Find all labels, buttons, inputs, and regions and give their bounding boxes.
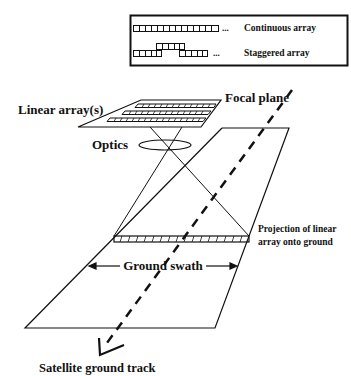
projection-band bbox=[114, 236, 249, 242]
continuous-array-label: Continuous array bbox=[244, 23, 316, 33]
focal-plane-label: Focal plane bbox=[225, 90, 289, 105]
ground-track-line bbox=[99, 90, 292, 355]
ground-strip bbox=[25, 128, 289, 328]
ground-swath-label: Ground swath bbox=[123, 258, 203, 273]
projection-label-line1: Projection of linear bbox=[258, 224, 337, 234]
ground-track-arrowhead bbox=[99, 338, 124, 355]
linear-arrays-label: Linear array(s) bbox=[18, 102, 103, 117]
continuous-array-icon bbox=[134, 26, 219, 32]
legend: ... Continuous array ... Staggered array bbox=[131, 16, 348, 66]
staggered-array-icon bbox=[134, 44, 208, 57]
staggered-array-label: Staggered array bbox=[244, 48, 310, 58]
ground-track-label: Satellite ground track bbox=[39, 361, 155, 375]
optics-label: Optics bbox=[92, 137, 128, 152]
light-rays bbox=[114, 127, 249, 236]
continuous-ellipsis: ... bbox=[222, 23, 229, 33]
projection-label-line2: array onto ground bbox=[258, 237, 333, 247]
pushbroom-diagram: ... Continuous array ... Staggered array bbox=[0, 0, 351, 376]
staggered-ellipsis: ... bbox=[213, 48, 220, 58]
optics-lens bbox=[139, 140, 191, 150]
